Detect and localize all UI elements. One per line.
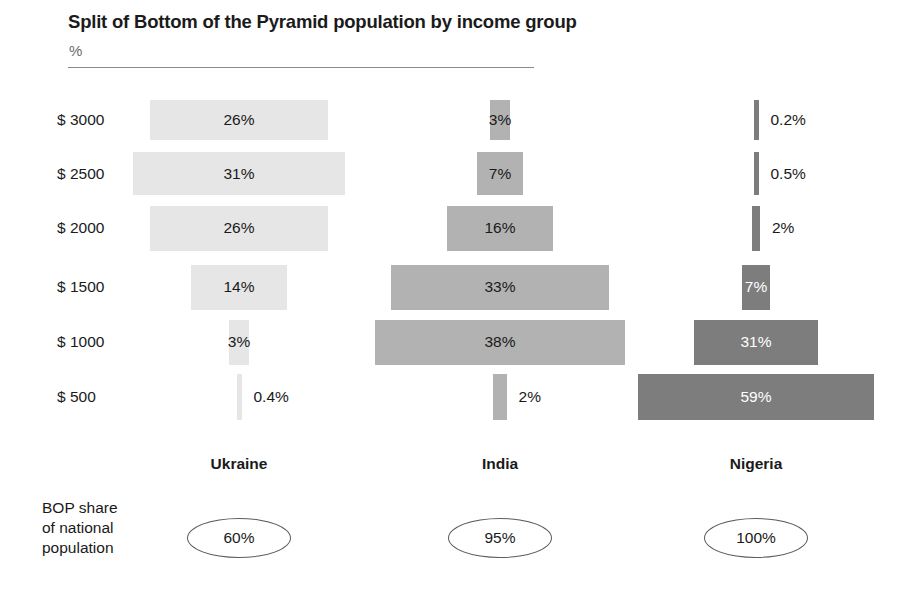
income-group-label: $ 3000 bbox=[57, 111, 104, 129]
bar-value-label: 31% bbox=[223, 166, 254, 182]
bop-share-badge-nigeria: 100% bbox=[704, 518, 808, 558]
bop-share-badge-ukraine: 60% bbox=[187, 518, 291, 558]
bop-share-value: 60% bbox=[223, 530, 254, 546]
bar-value-label: 7% bbox=[745, 279, 767, 295]
country-label-ukraine: Ukraine bbox=[211, 455, 268, 473]
bar-india-1000: 38% bbox=[375, 320, 626, 365]
bar-value-label: 16% bbox=[484, 220, 515, 236]
income-group-label: $ 1000 bbox=[57, 333, 104, 351]
income-group-label: $ 500 bbox=[57, 388, 96, 406]
bar-value-label: 38% bbox=[484, 334, 515, 350]
income-group-label: $ 2000 bbox=[57, 219, 104, 237]
bar-value-label: 2% bbox=[519, 389, 541, 405]
bar-value-label: 26% bbox=[223, 112, 254, 128]
income-group-label: $ 2500 bbox=[57, 165, 104, 183]
country-label-nigeria: Nigeria bbox=[730, 455, 783, 473]
income-group-label: $ 1500 bbox=[57, 278, 104, 296]
bar-value-label: 2% bbox=[772, 220, 794, 236]
bar-ukraine-3000: 26% bbox=[150, 100, 328, 140]
bar-nigeria-1500: 7% bbox=[742, 265, 770, 310]
bop-share-caption: BOP share of national population bbox=[42, 498, 118, 558]
bar-value-label: 0.2% bbox=[771, 112, 806, 128]
bar-nigeria-1000: 31% bbox=[694, 320, 818, 365]
bar-nigeria-3000 bbox=[754, 100, 759, 140]
bar-india-2500: 7% bbox=[477, 152, 523, 195]
bar-value-label: 31% bbox=[740, 334, 771, 350]
bop-share-value: 100% bbox=[736, 530, 776, 546]
bar-ukraine-2000: 26% bbox=[150, 206, 328, 251]
bar-ukraine-500 bbox=[237, 374, 242, 420]
bar-value-label: 33% bbox=[484, 279, 515, 295]
bop-caption-line-2: of national bbox=[42, 518, 118, 538]
bar-nigeria-2500 bbox=[754, 152, 759, 195]
bop-share-value: 95% bbox=[484, 530, 515, 546]
bop-share-badge-india: 95% bbox=[448, 518, 552, 558]
bar-nigeria-500: 59% bbox=[638, 374, 874, 420]
bar-value-label: 0.5% bbox=[771, 166, 806, 182]
bar-india-1500: 33% bbox=[391, 265, 609, 310]
chart-page: Split of Bottom of the Pyramid populatio… bbox=[0, 0, 907, 593]
bar-value-label: 7% bbox=[489, 166, 511, 182]
bar-value-label: 26% bbox=[223, 220, 254, 236]
bar-india-500 bbox=[493, 374, 506, 420]
bar-value-label: 59% bbox=[740, 389, 771, 405]
bar-india-3000: 3% bbox=[490, 100, 510, 140]
bar-value-label: 14% bbox=[223, 279, 254, 295]
bar-value-label: 3% bbox=[489, 112, 511, 128]
bop-caption-line-3: population bbox=[42, 538, 118, 558]
bar-ukraine-1000: 3% bbox=[229, 320, 250, 365]
bar-india-2000: 16% bbox=[447, 206, 553, 251]
bar-nigeria-2000 bbox=[752, 206, 760, 251]
bar-value-label: 0.4% bbox=[254, 389, 289, 405]
chart-plot-area: $ 3000$ 2500$ 2000$ 1500$ 1000$ 50026%31… bbox=[0, 0, 907, 593]
bar-value-label: 3% bbox=[228, 334, 250, 350]
bop-caption-line-1: BOP share bbox=[42, 498, 118, 518]
bar-ukraine-2500: 31% bbox=[133, 152, 345, 195]
bar-ukraine-1500: 14% bbox=[191, 265, 287, 310]
country-label-india: India bbox=[482, 455, 518, 473]
